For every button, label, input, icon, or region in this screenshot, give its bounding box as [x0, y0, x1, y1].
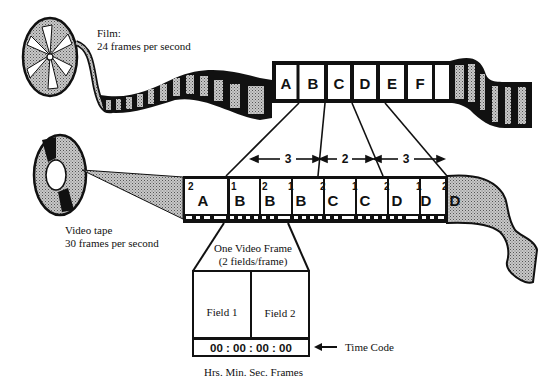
film-frame-c: C — [334, 75, 345, 92]
film-frame-f: F — [415, 75, 424, 92]
film-frame-e: E — [387, 75, 397, 92]
video-frame-subtitle: (2 fields/frame) — [219, 255, 288, 268]
video-frame-title: One Video Frame — [214, 242, 292, 254]
video-field-number: 1 — [352, 181, 358, 192]
field-1-label: Field 1 — [207, 306, 238, 318]
timecode-units-label: Hrs. Min. Sec. Frames — [204, 366, 303, 378]
video-frame-letter: B — [235, 192, 246, 209]
film-frame-b: B — [308, 75, 319, 92]
video-field-number: 1 — [231, 181, 237, 192]
video-frame-letter: B — [265, 192, 276, 209]
film-strip — [76, 43, 532, 128]
video-tape-lead — [82, 170, 183, 219]
timecode-value: 00 : 00 : 00 : 00 — [210, 342, 292, 354]
cadence-group-3: 3 — [403, 152, 410, 166]
video-frame-letter: D — [450, 192, 461, 209]
film-rate-label: 24 frames per second — [97, 40, 191, 52]
video-field-number: 2 — [442, 181, 448, 192]
video-rate-label: 30 frames per second — [65, 237, 159, 249]
film-frame-d: D — [360, 75, 371, 92]
video-field-number: 1 — [416, 181, 422, 192]
video-frame-letter: B — [296, 192, 307, 209]
cadence-group-1: 3 — [285, 152, 292, 166]
video-label: Video tape — [65, 224, 112, 236]
video-field-number: 1 — [288, 181, 294, 192]
video-field-number: 2 — [384, 181, 390, 192]
timecode-label: Time Code — [345, 341, 394, 353]
video-field-number: 2 — [320, 181, 326, 192]
video-reel-icon — [34, 135, 86, 215]
film-label: Film: — [97, 27, 121, 39]
video-field-number: 2 — [262, 181, 268, 192]
telecine-pulldown-diagram: Film: 24 frames per second A B C D E F — [0, 0, 556, 384]
film-reel-icon — [23, 18, 77, 96]
video-field-number: 2 — [188, 181, 194, 192]
field-2-label: Field 2 — [265, 307, 296, 319]
video-frame-letter: C — [328, 192, 339, 209]
cadence-group-2: 2 — [342, 152, 349, 166]
video-frame-letter: A — [198, 192, 209, 209]
timecode-arrow-icon — [314, 343, 337, 351]
video-frame-letter: D — [392, 192, 403, 209]
video-frame-letter: C — [360, 192, 371, 209]
video-frame-letter: D — [421, 192, 432, 209]
film-frame-a: A — [281, 75, 292, 92]
